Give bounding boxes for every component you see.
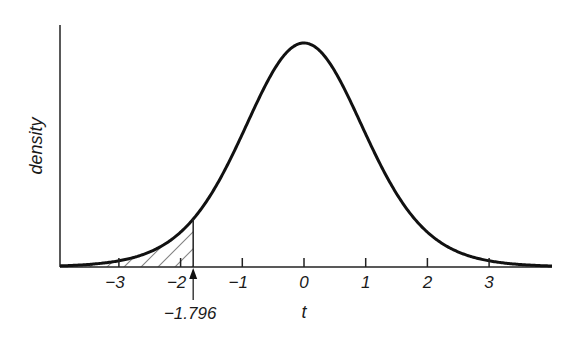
y-axis-label: density	[26, 116, 46, 174]
x-tick-label: 2	[422, 273, 433, 292]
t-distribution-chart: −3−2−10123 −1.796 t density	[0, 0, 580, 338]
arrow-up-icon	[189, 268, 197, 279]
critical-value-label: −1.796	[164, 304, 217, 323]
x-tick-label: −3	[105, 273, 125, 292]
x-axis-label: t	[301, 302, 307, 322]
x-tick-label: 1	[361, 273, 370, 292]
x-tick-label: −1	[229, 273, 248, 292]
density-curve	[60, 43, 552, 266]
x-tick-label: −2	[167, 273, 187, 292]
x-tick-label: 3	[484, 273, 494, 292]
x-tick-label: 0	[299, 273, 309, 292]
x-tick-labels: −3−2−10123	[105, 273, 494, 292]
